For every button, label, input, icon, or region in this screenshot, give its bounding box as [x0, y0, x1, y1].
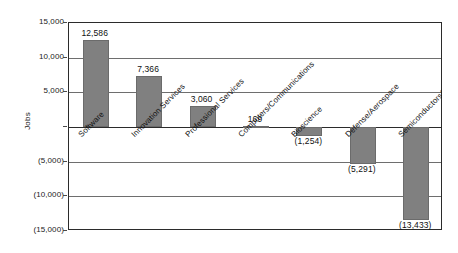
y-tick-label: (5,000): [16, 156, 64, 165]
y-tick-label: (10,000): [16, 190, 64, 199]
gridline: [69, 196, 441, 197]
bar: [403, 127, 429, 220]
bar: [190, 106, 216, 127]
y-tick-mark: [63, 57, 67, 58]
bar-value-label: 169: [223, 114, 287, 124]
gridline: [69, 162, 441, 163]
bar-value-label: (1,254): [276, 136, 340, 146]
y-tick-label: (15,000): [16, 225, 64, 234]
bar: [243, 126, 269, 128]
bar-value-label: 12,586: [63, 28, 127, 38]
y-tick-mark: [63, 91, 67, 92]
bar: [296, 127, 322, 136]
y-tick-label: 15,000: [16, 17, 64, 26]
bar-value-label: 7,366: [116, 64, 180, 74]
bar-chart: Jobs 15,00010,0005,000(5,000)(10,000)(15…: [0, 0, 458, 253]
y-tick-label: 10,000: [16, 52, 64, 61]
bar-value-label: 3,060: [170, 94, 234, 104]
gridline: [69, 92, 441, 93]
bar: [136, 76, 162, 127]
y-tick-label: 5,000: [16, 86, 64, 95]
bar-value-label: (5,291): [330, 164, 394, 174]
y-axis-tick-labels: 15,00010,0005,000(5,000)(10,000)(15,000): [16, 0, 64, 253]
y-tick-mark: [63, 195, 67, 196]
y-tick-mark: [63, 230, 67, 231]
plot-area: [68, 22, 442, 230]
gridline: [69, 58, 441, 59]
bar: [83, 40, 109, 127]
bar-value-label: (13,433): [383, 220, 447, 230]
bar: [350, 127, 376, 164]
y-tick-mark: [63, 126, 67, 127]
y-tick-mark: [63, 22, 67, 23]
y-tick-mark: [63, 161, 67, 162]
